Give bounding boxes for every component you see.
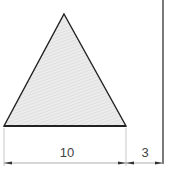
- arrow-right-icon: [118, 162, 126, 165]
- arrow-gap-right-icon: [155, 162, 163, 165]
- triangle: [4, 14, 126, 126]
- base-dimension-label: 10: [60, 145, 74, 160]
- arrow-gap-left-icon: [126, 162, 134, 165]
- arrow-left-icon: [4, 162, 12, 165]
- geometry-diagram: 10 3: [0, 0, 170, 170]
- gap-dimension-label: 3: [141, 145, 148, 160]
